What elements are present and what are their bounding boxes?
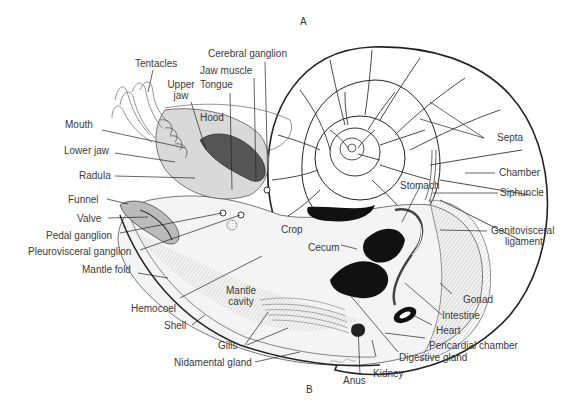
label-kidney: Kidney [373, 368, 404, 379]
pleurovisceral-ganglion-dot [238, 212, 244, 218]
label-pleurovisceral-ganglion: Pleurovisceral ganglion [28, 246, 131, 257]
label-tongue: Tongue [200, 79, 233, 90]
siphuncle-tube [425, 150, 432, 200]
body-mass [118, 196, 483, 365]
diagram-drawing [0, 0, 585, 416]
panel-label-b: B [306, 384, 313, 395]
label-stomach: Stomach [400, 180, 439, 191]
label-mantle-fold: Mantle fold [82, 264, 131, 275]
label-upper-jaw-line1: Upper [167, 79, 194, 90]
label-upper-jaw: Upper jaw [166, 79, 196, 101]
label-mantle-cavity-line2: cavity [228, 296, 254, 307]
cerebral-ganglion-dot [264, 187, 270, 193]
label-gonad: Gonad [463, 294, 493, 305]
label-crop: Crop [281, 224, 303, 235]
label-genitovisceral-line1: Genitovisceral [491, 225, 554, 236]
label-septa: Septa [497, 132, 523, 143]
label-jaw-muscle: Jaw muscle [200, 65, 252, 76]
label-funnel: Funnel [68, 194, 99, 205]
label-genitovisceral-ligament: Genitovisceral ligament [491, 225, 554, 247]
label-upper-jaw-line2: jaw [173, 90, 188, 101]
nautilus-anatomy-diagram: A B Tentacles Cerebral ganglion Jaw musc… [0, 0, 585, 416]
label-pedal-ganglion: Pedal ganglion [46, 230, 112, 241]
label-radula: Radula [79, 170, 111, 181]
label-digestive-gland: Digestive gland [399, 352, 467, 363]
label-siphuncle: Siphuncle [500, 187, 544, 198]
label-anus: Anus [343, 375, 366, 386]
label-genitovisceral-line2: ligament [491, 236, 543, 247]
label-pericardial-chamber: Pericardial chamber [429, 340, 518, 351]
label-cecum: Cecum [308, 242, 340, 253]
label-nidamental-gland: Nidamental gland [174, 357, 252, 368]
label-tentacles: Tentacles [135, 58, 177, 69]
label-shell: Shell [164, 320, 186, 331]
label-lower-jaw: Lower jaw [64, 145, 109, 156]
label-hemocoel: Hemocoel [131, 303, 176, 314]
label-valve: Valve [77, 213, 101, 224]
label-mouth: Mouth [65, 119, 93, 130]
label-chamber: Chamber [499, 167, 540, 178]
label-mantle-cavity-line1: Mantle [226, 285, 256, 296]
label-hood: Hood [200, 112, 224, 123]
panel-label-a: A [300, 16, 307, 27]
label-heart: Heart [436, 325, 460, 336]
label-mantle-cavity: Mantle cavity [220, 285, 262, 307]
label-intestine: Intestine [442, 310, 480, 321]
label-gills: Gills [218, 340, 237, 351]
label-cerebral-ganglion: Cerebral ganglion [208, 48, 287, 59]
